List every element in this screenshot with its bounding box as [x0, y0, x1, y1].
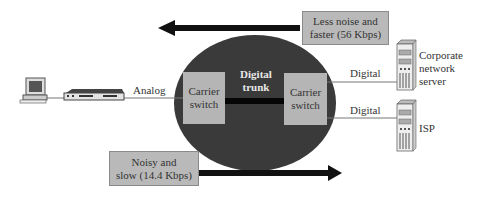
server-icon-isp	[397, 100, 416, 151]
modem-icon	[64, 89, 124, 100]
corporate-server-label: Corporate network server	[419, 49, 463, 88]
callout-bottom-line2: slow (14.4 Kbps)	[116, 169, 192, 182]
arrow-left-icon	[158, 20, 300, 36]
digital-label-top: Digital	[350, 67, 381, 79]
corporate-label-3: server	[419, 75, 463, 88]
left-switch-label-2: switch	[188, 98, 219, 111]
analog-label: Analog	[133, 84, 165, 96]
computer-icon	[20, 78, 47, 103]
right-switch-label-2: switch	[290, 99, 321, 112]
corporate-label-1: Corporate	[419, 49, 463, 62]
left-switch-label-1: Carrier	[188, 85, 219, 98]
callout-bottom: Noisy and slow (14.4 Kbps)	[109, 151, 199, 186]
trunk-label-2: trunk	[238, 81, 274, 94]
digital-trunk-line	[224, 98, 290, 104]
right-switch-label-1: Carrier	[290, 86, 321, 99]
digital-label-bottom: Digital	[350, 104, 381, 116]
digital-trunk-label: Digital trunk	[238, 68, 274, 94]
right-carrier-switch: Carrier switch	[284, 73, 327, 125]
server-icon-corporate	[397, 40, 416, 90]
callout-top-line1: Less noise and	[310, 15, 381, 28]
callout-top: Less noise and faster (56 Kbps)	[302, 11, 389, 45]
left-carrier-switch: Carrier switch	[183, 72, 225, 124]
isp-label: ISP	[419, 122, 435, 134]
callout-top-line2: faster (56 Kbps)	[310, 28, 381, 41]
diagram-canvas	[0, 0, 477, 197]
trunk-label-1: Digital	[238, 68, 274, 81]
corporate-label-2: network	[419, 62, 463, 75]
callout-bottom-line1: Noisy and	[116, 156, 192, 169]
